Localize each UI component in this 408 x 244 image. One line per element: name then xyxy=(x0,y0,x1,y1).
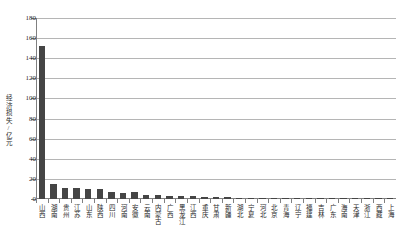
y-tick-label: 180 xyxy=(6,15,36,22)
x-tick-label: 天津 xyxy=(352,204,359,218)
bar-slot xyxy=(222,18,234,199)
x-tick-slot xyxy=(152,199,164,203)
x-tick-mark xyxy=(326,199,327,203)
x-tick-mark xyxy=(48,199,49,203)
x-tick-slot xyxy=(59,199,71,203)
bar-slot xyxy=(117,18,129,199)
y-tick-label: 140 xyxy=(6,55,36,62)
x-tick-mark xyxy=(94,199,95,203)
x-tick-mark xyxy=(117,199,118,203)
x-tick-label: 安徽 xyxy=(131,204,138,218)
bar-slot xyxy=(48,18,60,199)
x-tick-label: 湖南 xyxy=(50,204,57,218)
x-label-slot: 江苏 xyxy=(71,204,83,244)
y-tick-label: 120 xyxy=(6,75,36,82)
y-tick-label: 40 xyxy=(6,155,36,162)
bar-slot xyxy=(338,18,350,199)
x-label-slot: 安徽 xyxy=(129,204,141,244)
bar-slot xyxy=(164,18,176,199)
x-label-slot: 海南 xyxy=(338,204,350,244)
x-label-slot: 河北 xyxy=(257,204,269,244)
x-tick-label: 江西 xyxy=(189,204,196,218)
x-tick-mark xyxy=(129,199,130,203)
bar-slot xyxy=(326,18,338,199)
bar-slot xyxy=(94,18,106,199)
x-label-slot: 青海 xyxy=(280,204,292,244)
y-tick-label: 80 xyxy=(6,115,36,122)
bar-slot xyxy=(233,18,245,199)
bar-slot xyxy=(315,18,327,199)
x-tick-mark xyxy=(245,199,246,203)
x-tick-slot xyxy=(199,199,211,203)
x-tick-slot xyxy=(106,199,118,203)
bar xyxy=(131,192,137,199)
x-label-slot: 江西 xyxy=(187,204,199,244)
bar-slot xyxy=(257,18,269,199)
bar xyxy=(108,192,114,199)
x-tick-mark xyxy=(280,199,281,203)
x-label-slot: 浙江 xyxy=(361,204,373,244)
x-tick-slot xyxy=(164,199,176,203)
x-tick-label: 甘肃 xyxy=(212,204,219,218)
x-tick-slot xyxy=(361,199,373,203)
bar-slot xyxy=(152,18,164,199)
x-tick-slot xyxy=(94,199,106,203)
x-tick-label: 内蒙古 xyxy=(154,204,161,225)
x-tick-slot xyxy=(48,199,60,203)
x-tick-label: 新疆 xyxy=(224,204,231,218)
x-tick-label: 青海 xyxy=(282,204,289,218)
x-tick-mark xyxy=(257,199,258,203)
x-tick-slot xyxy=(82,199,94,203)
x-tick-label: 贵州 xyxy=(62,204,69,218)
x-label-slot: 甘肃 xyxy=(210,204,222,244)
x-tick-slot xyxy=(71,199,83,203)
bar-slot xyxy=(140,18,152,199)
x-tick-slot xyxy=(291,199,303,203)
x-tick-mark xyxy=(315,199,316,203)
x-tick-slot xyxy=(268,199,280,203)
x-label-slot: 湖北 xyxy=(233,204,245,244)
x-tick-mark xyxy=(59,199,60,203)
x-tick-label: 广东 xyxy=(329,204,336,218)
x-tick-mark xyxy=(152,199,153,203)
x-tick-mark xyxy=(82,199,83,203)
bar-slot xyxy=(106,18,118,199)
x-tick-mark xyxy=(106,199,107,203)
x-tick-slot xyxy=(140,199,152,203)
x-label-slot: 河南 xyxy=(117,204,129,244)
x-tick-mark xyxy=(233,199,234,203)
x-tick-slot xyxy=(233,199,245,203)
y-tick-label: 20 xyxy=(6,175,36,182)
x-label-slot: 西藏 xyxy=(373,204,385,244)
x-tick-slot xyxy=(349,199,361,203)
bar xyxy=(62,188,68,199)
bar-slot xyxy=(59,18,71,199)
x-label-slot: 山西 xyxy=(36,204,48,244)
x-tick-label: 山东 xyxy=(85,204,92,218)
x-tick-slot xyxy=(129,199,141,203)
bar-slot xyxy=(361,18,373,199)
x-tick-label: 西藏 xyxy=(375,204,382,218)
x-tick-slot xyxy=(36,199,48,203)
x-tick-label: 四川 xyxy=(108,204,115,218)
y-axis-ticks: 180160140120100806040200 xyxy=(0,18,36,199)
bar-slot xyxy=(199,18,211,199)
x-tick-slot xyxy=(326,199,338,203)
bar-chart: 经济损失/亿元 180160140120100806040200 山西湖南贵州江… xyxy=(0,0,408,244)
x-tick-mark xyxy=(187,199,188,203)
x-tick-mark xyxy=(164,199,165,203)
x-tick-slot xyxy=(245,199,257,203)
x-tick-mark xyxy=(71,199,72,203)
x-tick-mark xyxy=(338,199,339,203)
bar-slot xyxy=(268,18,280,199)
x-tick-label: 浙江 xyxy=(363,204,370,218)
x-tick-slot xyxy=(384,199,396,203)
x-tick-label: 陕西 xyxy=(96,204,103,218)
x-tick-label: 上海 xyxy=(387,204,394,218)
x-tick-label: 宁夏 xyxy=(247,204,254,218)
x-label-slot: 天津 xyxy=(349,204,361,244)
x-label-slot: 福建 xyxy=(303,204,315,244)
x-tick-slot xyxy=(338,199,350,203)
x-tick-mark xyxy=(175,199,176,203)
bar-slot xyxy=(71,18,83,199)
